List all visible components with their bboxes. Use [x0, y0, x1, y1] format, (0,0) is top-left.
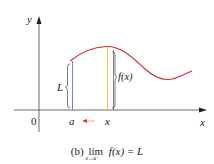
y-axis-label: y — [27, 14, 32, 25]
figure-caption: (b) lim x→a⁺ f(x) = L — [0, 145, 214, 157]
tick-label-x: x — [105, 116, 110, 127]
limit-diagram: y 0 x a x L f(x) (b) lim x→a⁺ f(x) = L — [0, 0, 214, 164]
origin-label: 0 — [31, 116, 37, 127]
brace-label-L: L — [57, 82, 63, 93]
caption-prefix: (b) — [71, 145, 84, 157]
y-axis-arrow-icon — [37, 16, 42, 24]
caption-lim-subscript: x→a⁺ — [85, 155, 99, 161]
x-axis-label: x — [200, 117, 205, 128]
brace-L-icon — [66, 64, 71, 108]
brace-fx-icon — [112, 52, 117, 108]
approach-arrow-icon — [82, 119, 87, 123]
brace-label-fx: f(x) — [118, 72, 133, 83]
caption-limit: lim x→a⁺ — [88, 145, 103, 157]
caption-expression: f(x) = L — [109, 145, 143, 157]
tick-label-a: a — [69, 116, 75, 127]
diagram-canvas — [0, 0, 214, 164]
x-axis-arrow-icon — [199, 108, 207, 113]
